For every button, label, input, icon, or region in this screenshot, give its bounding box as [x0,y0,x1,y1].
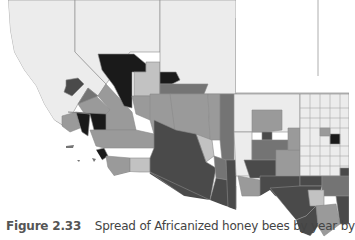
figure-caption: Figure 2.33 Spread of Africanized honey … [6,219,355,233]
arizona-cochise [226,160,236,210]
arizona-apache [220,94,234,160]
texas-county-dark-3 [300,176,322,186]
new-mexico-county-b [262,132,272,140]
riverside-county [90,130,154,148]
texas-county-dark-1 [330,134,340,144]
new-mexico-county-e [276,150,300,178]
imperial-county [130,158,150,172]
new-mexico-county-h [288,128,300,150]
figure-label: Figure 2.33 [6,219,81,233]
utah-south-county [160,84,208,94]
texas-county-med-1 [320,128,330,136]
new-mexico-county-f [238,176,260,196]
new-mexico-county-a [252,110,282,132]
colorado-top-blank [236,0,349,93]
figure-caption-text: Spread of Africanized honey bees by year… [95,219,355,233]
new-mexico-county-d [244,160,276,178]
arizona-navajo [208,94,220,140]
texas-county-med-2 [322,176,349,196]
texas-county-light-2 [308,190,324,206]
